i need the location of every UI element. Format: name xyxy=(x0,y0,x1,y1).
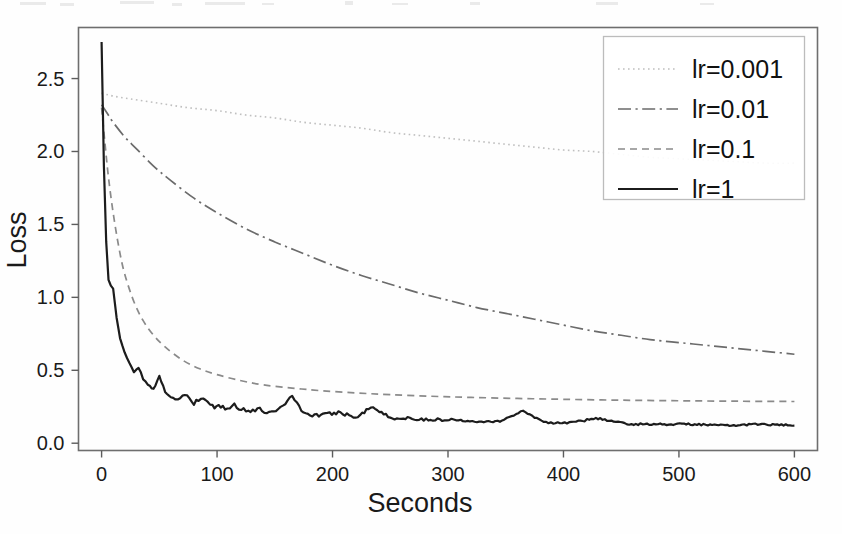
y-tick-label: 1.5 xyxy=(37,213,65,235)
legend-label: lr=0.001 xyxy=(692,55,783,83)
chart-legend: lr=0.001lr=0.01lr=0.1lr=1 xyxy=(604,37,805,204)
legend-label: lr=0.01 xyxy=(692,95,769,123)
y-tick-label: 2.5 xyxy=(37,68,65,90)
legend-label: lr=0.1 xyxy=(692,135,755,163)
x-tick-label: 0 xyxy=(96,463,107,485)
y-axis-ticks: 0.00.51.01.52.02.5 xyxy=(37,68,79,455)
x-tick-label: 400 xyxy=(547,463,580,485)
x-tick-label: 600 xyxy=(778,463,811,485)
x-tick-label: 100 xyxy=(200,463,233,485)
legend-label: lr=1 xyxy=(692,175,734,203)
x-tick-label: 200 xyxy=(316,463,349,485)
x-axis-ticks: 0100200300400500600 xyxy=(96,451,811,485)
x-tick-label: 300 xyxy=(431,463,464,485)
x-tick-label: 500 xyxy=(662,463,695,485)
y-tick-label: 0.5 xyxy=(37,359,65,381)
figure-canvas: 0100200300400500600 0.00.51.01.52.02.5 S… xyxy=(0,0,842,534)
y-tick-label: 2.0 xyxy=(37,140,65,162)
x-axis-title: Seconds xyxy=(367,488,472,518)
y-tick-label: 1.0 xyxy=(37,286,65,308)
loss-curve-chart: 0100200300400500600 0.00.51.01.52.02.5 S… xyxy=(0,0,842,534)
y-tick-label: 0.0 xyxy=(37,432,65,454)
y-axis-title: Loss xyxy=(2,211,32,268)
